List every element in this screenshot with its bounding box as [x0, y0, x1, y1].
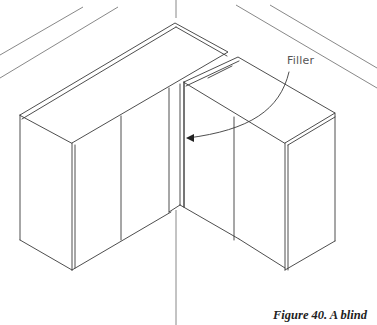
filler-strip [169, 82, 184, 212]
left-wall-cabinet [20, 23, 228, 270]
figure-canvas: Filler Figure 40. A blind [0, 0, 377, 325]
filler-callout-arrow [186, 72, 289, 142]
arrowhead-icon [186, 134, 194, 142]
callout-label: Filler [287, 54, 314, 67]
cabinet-drawing [0, 0, 377, 325]
wall-lines [0, 0, 377, 325]
figure-caption: Figure 40. A blind [273, 308, 367, 323]
right-wall-cabinet [180, 57, 335, 270]
